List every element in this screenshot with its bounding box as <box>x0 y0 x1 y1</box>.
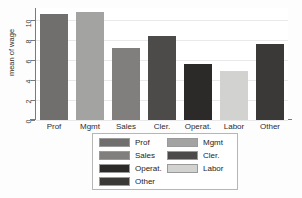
bar-prof <box>40 14 69 120</box>
legend-swatch-icon <box>99 177 130 186</box>
chart-figure: mean of wage 1086420 ProfMgmtSalesCler.O… <box>0 0 302 198</box>
legend-swatch-icon <box>99 138 130 147</box>
legend-swatch-icon <box>167 164 198 173</box>
x-tick-label: Cler. <box>144 122 180 131</box>
legend-swatch-icon <box>167 138 198 147</box>
bar-operat <box>184 64 213 120</box>
y-tick-label: 6 <box>25 60 32 74</box>
legend-label: Mgmt <box>203 138 223 147</box>
y-tick-mark <box>31 120 35 121</box>
y-tick-label: 8 <box>25 40 32 54</box>
legend: ProfMgmtSalesCler.Operat.LaborOther <box>92 133 238 190</box>
x-tick-label: Other <box>252 122 288 131</box>
x-tick-label: Prof <box>36 122 72 131</box>
y-tick-label: 10 <box>25 20 32 34</box>
bar-mgmt <box>76 12 105 120</box>
y-tick-label: 2 <box>25 100 32 114</box>
legend-swatch-icon <box>99 164 130 173</box>
x-tick-label: Labor <box>216 122 252 131</box>
x-tick-label: Mgmt <box>72 122 108 131</box>
legend-label: Labor <box>203 164 223 173</box>
legend-label: Cler. <box>203 151 219 160</box>
x-tick-label: Sales <box>108 122 144 131</box>
bar-series <box>36 8 288 120</box>
bar-other <box>256 44 285 120</box>
legend-label: Prof <box>135 138 150 147</box>
y-tick-label: 4 <box>25 80 32 94</box>
legend-swatch-icon <box>167 151 198 160</box>
y-tick-label: 0 <box>25 120 32 134</box>
bar-sales <box>112 48 141 120</box>
gridline <box>36 120 288 121</box>
legend-swatch-icon <box>99 151 130 160</box>
x-tick-label: Operat. <box>180 122 216 131</box>
bar-labor <box>220 71 249 120</box>
legend-label: Other <box>135 177 155 186</box>
plot-area <box>36 8 288 120</box>
legend-label: Operat. <box>135 164 162 173</box>
legend-label: Sales <box>135 151 155 160</box>
bar-cler <box>148 36 177 120</box>
